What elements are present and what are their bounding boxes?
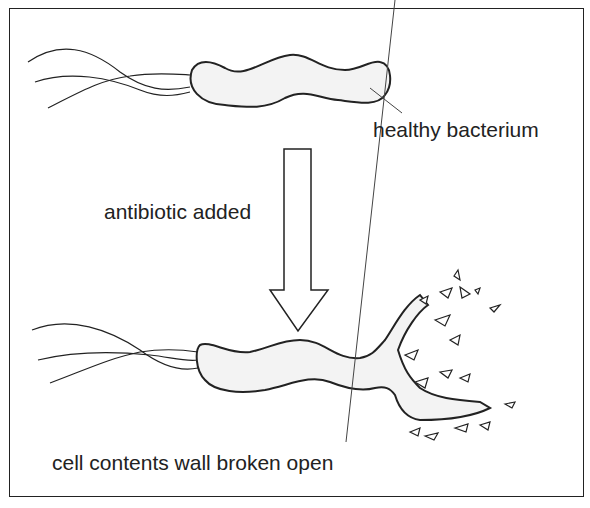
label-antibiotic-added: antibiotic added: [104, 200, 251, 224]
bacterium-icon: [197, 295, 490, 420]
label-healthy-bacterium: healthy bacterium: [373, 118, 539, 142]
down-arrow-icon: [270, 149, 328, 331]
diagram-canvas: [0, 0, 590, 508]
label-cell-broken: cell contents wall broken open: [52, 451, 333, 475]
flagella-icon: [28, 49, 190, 108]
flagella-icon: [32, 324, 198, 383]
bacterium-icon: [191, 55, 391, 107]
